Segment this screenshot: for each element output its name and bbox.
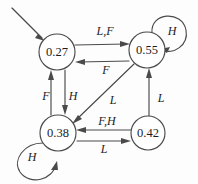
state-transition-diagram: L,F F F H L L	[0, 0, 198, 184]
node-027[interactable]: 0.27	[39, 34, 75, 70]
edge-label-038-to-042: L	[100, 142, 108, 156]
edge-label-038-to-027: F	[41, 89, 50, 103]
node-label-027: 0.27	[46, 45, 68, 59]
node-label-042: 0.42	[137, 126, 159, 140]
edge-label-055-to-038: L	[109, 93, 117, 107]
self-loop-label-055: H	[167, 24, 178, 38]
edge-label-042-to-055: L	[157, 91, 165, 105]
start-arrow	[12, 8, 45, 41]
node-label-038: 0.38	[47, 126, 69, 140]
edge-label-055-to-027: F	[101, 63, 110, 77]
edge-label-027-to-038: H	[68, 89, 79, 103]
node-label-055: 0.55	[136, 43, 158, 57]
edge-042-to-055	[146, 68, 152, 116]
node-038[interactable]: 0.38	[40, 115, 76, 151]
edge-027-to-055	[75, 41, 130, 47]
self-loop-label-038: H	[27, 150, 38, 164]
edge-027-to-038	[62, 70, 68, 115]
state-diagram-container: L,F F F H L L	[0, 0, 198, 184]
node-055[interactable]: 0.55	[129, 32, 165, 68]
edge-label-027-to-055: L,F	[95, 24, 114, 38]
edge-label-042-to-038: F,H	[97, 114, 117, 128]
node-042[interactable]: 0.42	[131, 116, 165, 150]
